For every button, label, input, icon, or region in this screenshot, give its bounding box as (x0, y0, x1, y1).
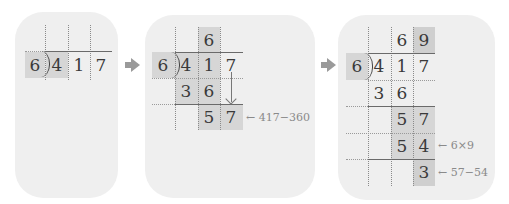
dividend-digit: 1 (391, 53, 413, 79)
divisor-cell: 6 (346, 53, 368, 79)
divisor-cell: 6 (152, 52, 174, 78)
quotient-digit: 9 (413, 27, 435, 53)
remainder-digit: 5 (198, 104, 220, 130)
grid-line (152, 104, 175, 105)
product2-note: ← 6×9 (438, 139, 474, 153)
next-step-arrow-icon (327, 58, 336, 72)
dividend-digit: 7 (413, 53, 435, 79)
dividend-digit: 1 (68, 52, 90, 78)
dividend-digit: 1 (198, 52, 220, 78)
dividend-digit: 7 (90, 52, 112, 78)
next-step-arrow-icon (131, 58, 140, 72)
product-digit: 3 (175, 78, 197, 104)
dividend-digit: 4 (368, 53, 390, 79)
remainder1-digit: 5 (391, 106, 413, 132)
dividend-digit: 4 (175, 52, 197, 78)
product2-digit: 4 (413, 133, 435, 159)
quotient-digit: 6 (391, 27, 413, 53)
step-1-panel (15, 12, 118, 198)
remainder-digit: 7 (220, 104, 242, 130)
remainder1-digit: 7 (413, 106, 435, 132)
quotient-digit: 6 (198, 27, 220, 53)
product-digit: 6 (198, 78, 220, 104)
remainder2-note: ← 57−54 (438, 166, 488, 180)
product1-digit: 6 (391, 80, 413, 106)
division-bar (45, 51, 112, 52)
grid-line (346, 106, 368, 107)
remainder2-digit: 3 (413, 159, 435, 185)
product1-digit: 3 (368, 80, 390, 106)
product2-digit: 5 (391, 133, 413, 159)
bring-down-arrow-icon (231, 72, 232, 102)
step-2-note: ← 417−360 (246, 111, 310, 125)
grid-line (346, 159, 368, 160)
